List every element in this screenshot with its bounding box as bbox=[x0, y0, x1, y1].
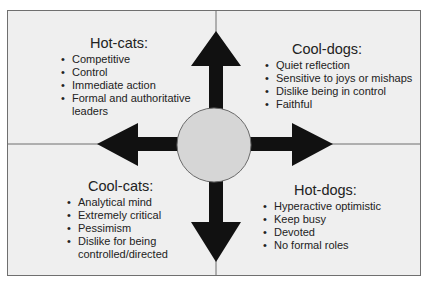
list-item: No formal roles bbox=[262, 239, 422, 252]
arrow-left-icon bbox=[97, 123, 185, 166]
list-item: Devoted bbox=[262, 226, 422, 239]
list-item: Formal and authoritative leaders bbox=[60, 92, 210, 118]
list-item: Analytical mind bbox=[66, 196, 216, 209]
list-item: Dislike for being controlled/directed bbox=[66, 235, 216, 261]
list-item: Immediate action bbox=[60, 79, 210, 92]
list-item: Extremely critical bbox=[66, 209, 216, 222]
list-item: Dislike being in control bbox=[264, 85, 424, 98]
trait-list: Hyperactive optimistic Keep busy Devoted… bbox=[262, 200, 422, 252]
quadrant-hot-cats: Hot-cats: Competitive Control Immediate … bbox=[60, 35, 210, 118]
quadrant-title: Cool-cats: bbox=[66, 178, 216, 194]
list-item: Competitive bbox=[60, 53, 210, 66]
center-circle bbox=[177, 108, 251, 182]
list-item: Faithful bbox=[264, 98, 424, 111]
list-item: Hyperactive optimistic bbox=[262, 200, 422, 213]
quadrant-title: Hot-cats: bbox=[60, 35, 210, 51]
arrow-right-icon bbox=[245, 123, 333, 166]
list-item: Pessimism bbox=[66, 222, 216, 235]
trait-list: Analytical mind Extremely critical Pessi… bbox=[66, 196, 216, 261]
quadrant-cool-dogs: Cool-dogs: Quiet reflection Sensitive to… bbox=[264, 41, 424, 111]
quadrant-cool-cats: Cool-cats: Analytical mind Extremely cri… bbox=[66, 178, 216, 261]
trait-list: Quiet reflection Sensitive to joys or mi… bbox=[264, 59, 424, 111]
quadrant-hot-dogs: Hot-dogs: Hyperactive optimistic Keep bu… bbox=[262, 182, 422, 252]
list-item: Sensitive to joys or mishaps bbox=[264, 72, 424, 85]
trait-list: Competitive Control Immediate action For… bbox=[60, 53, 210, 118]
list-item: Quiet reflection bbox=[264, 59, 424, 72]
list-item: Keep busy bbox=[262, 213, 422, 226]
quadrant-title: Cool-dogs: bbox=[264, 41, 424, 57]
list-item: Control bbox=[60, 66, 210, 79]
quadrant-title: Hot-dogs: bbox=[262, 182, 422, 198]
